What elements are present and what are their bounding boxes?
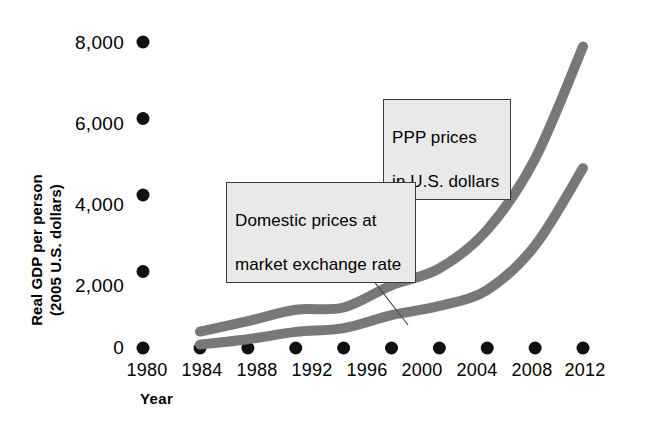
x-axis-tick-dot-1988 — [289, 342, 302, 355]
x-axis-tick-dot-2000 — [433, 342, 446, 355]
y-axis-tick-dot-4000 — [137, 189, 150, 202]
annotation-ppp-line1: PPP prices — [392, 128, 477, 147]
x-axis-tick-dot-2004 — [481, 342, 494, 355]
y-axis-tick-dot-6000 — [137, 112, 150, 125]
y-axis-tick-dot-0 — [137, 342, 150, 355]
annotation-domestic-line2: market exchange rate — [235, 255, 401, 274]
chart-container: Real GDP per person(2005 U.S. dollars) 8… — [0, 0, 647, 443]
x-axis-tick-dot-2012 — [577, 342, 590, 355]
y-axis-tick-dots — [137, 36, 150, 355]
y-axis-tick-dot-8000 — [137, 36, 150, 49]
x-axis-tick-dot-2008 — [529, 342, 542, 355]
x-axis-tick-dot-1992 — [337, 342, 350, 355]
x-axis-tick-dot-1996 — [385, 342, 398, 355]
annotation-domestic-line1: Domestic prices at — [235, 211, 377, 230]
y-axis-tick-dot-2000 — [137, 265, 150, 278]
annotation-domestic-prices: Domestic prices at market exchange rate — [226, 182, 416, 283]
